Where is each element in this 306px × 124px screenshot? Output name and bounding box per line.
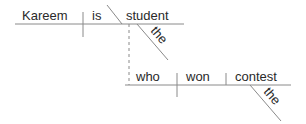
predicate-slash <box>107 5 122 24</box>
word-verb: is <box>92 8 102 23</box>
word-subject: Kareem <box>22 8 68 23</box>
sentence-diagram: Kareem is student the who won contest th… <box>0 0 306 124</box>
word-rel-subject: who <box>135 69 160 84</box>
word-rel-verb: won <box>185 69 210 84</box>
word-predicate: student <box>126 8 169 23</box>
word-modifier-the-2: the <box>261 84 284 107</box>
word-rel-object: contest <box>235 69 277 84</box>
word-modifier-the-1: the <box>148 23 171 46</box>
